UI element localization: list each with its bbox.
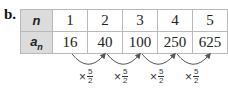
table-row-n: n 1 2 3 4 5 <box>21 10 228 32</box>
row-header-an: an <box>21 32 53 54</box>
times-icon: × <box>185 70 192 84</box>
ratio-label: × 52 <box>114 68 128 85</box>
fraction: 52 <box>158 68 164 85</box>
table-cell: 250 <box>158 32 193 54</box>
sequence-table: n 1 2 3 4 5 an 16 40 100 250 625 <box>20 9 228 54</box>
times-icon: × <box>79 70 86 84</box>
denominator: 2 <box>159 77 163 85</box>
part-label: b. <box>4 6 16 23</box>
fraction: 52 <box>193 68 199 85</box>
denominator: 2 <box>88 77 92 85</box>
fraction: 52 <box>122 68 128 85</box>
header-subscript: n <box>37 41 43 51</box>
ratio-label: × 52 <box>79 68 93 85</box>
table-cell: 625 <box>193 32 228 54</box>
table-cell: 100 <box>123 32 158 54</box>
times-icon: × <box>150 70 157 84</box>
table-cell: 1 <box>53 10 88 32</box>
table-cell: 3 <box>123 10 158 32</box>
table-cell: 4 <box>158 10 193 32</box>
table-cell: 5 <box>193 10 228 32</box>
row-header-n: n <box>21 10 53 32</box>
arrow-icon <box>142 54 174 64</box>
times-icon: × <box>114 70 121 84</box>
arrow-icon <box>177 54 209 64</box>
table-cell: 2 <box>88 10 123 32</box>
arrow-icon <box>72 54 104 64</box>
table-row-an: an 16 40 100 250 625 <box>21 32 228 54</box>
arrow-icon <box>107 54 139 64</box>
ratio-label: × 52 <box>150 68 164 85</box>
table-cell: 16 <box>53 32 88 54</box>
fraction: 52 <box>87 68 93 85</box>
ratio-label: × 52 <box>185 68 199 85</box>
table-cell: 40 <box>88 32 123 54</box>
denominator: 2 <box>194 77 198 85</box>
denominator: 2 <box>123 77 127 85</box>
